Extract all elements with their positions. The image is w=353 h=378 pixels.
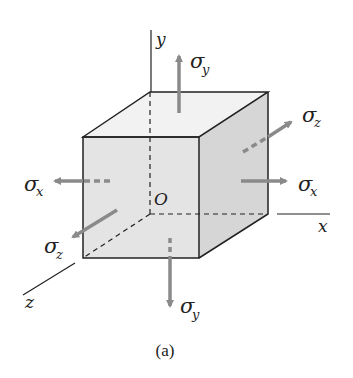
z-axis-label: z	[24, 292, 35, 312]
front-face	[83, 137, 199, 258]
sigma-z-front-label: σ z	[44, 234, 63, 262]
svg-text:x: x	[36, 184, 44, 199]
svg-text:z: z	[55, 247, 63, 262]
origin-label: O	[154, 189, 168, 209]
sigma-x-right-label: σ x	[298, 172, 318, 199]
z-axis	[23, 263, 75, 295]
y-axis-label: y	[155, 29, 166, 49]
x-axis-label: x	[318, 216, 328, 236]
sigma-z-back-arrow	[268, 122, 291, 137]
svg-text:z: z	[313, 115, 321, 130]
sigma-z-back-label: σ z	[302, 103, 321, 130]
cube	[83, 92, 268, 258]
svg-text:x: x	[310, 184, 318, 199]
sigma-y-bottom-label: σ y	[180, 294, 200, 322]
sigma-y-top-label: σ y	[190, 49, 210, 77]
svg-text:y: y	[201, 62, 210, 77]
sigma-x-left-label: σ x	[24, 172, 44, 199]
stress-element-diagram: y x z O σ y σ y σ x σ x σ z σ z (a)	[0, 0, 353, 378]
figure-caption: (a)	[156, 341, 175, 360]
svg-text:y: y	[191, 307, 200, 322]
